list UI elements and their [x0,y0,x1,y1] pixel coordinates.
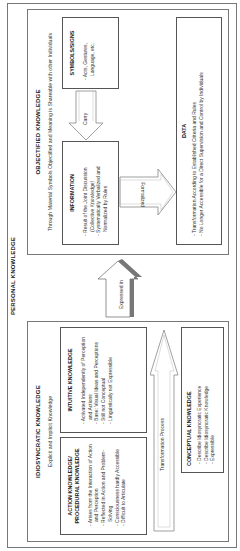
symbols-signs-list: Acts, Gestures, Language, etc. [82,18,96,88]
list-item: No Longer Accessible for a Direct Superv… [198,22,205,236]
list-item: Transformation According to Established … [191,22,198,236]
objectified-title: OBJECTIFIED KNOWLEDGE [35,9,41,255]
list-item: Describe Idiosyncratic Experience [196,332,203,464]
information-list: Result of the Joint Discussion (Collecti… [82,142,109,244]
symbols-signs-box: SYMBOLS/SIGNS Acts, Gestures, Language, … [62,17,119,89]
list-item: Describe Idiosyncratic Knowledge [203,332,210,464]
transformation-label: Transformation Process [159,418,165,471]
objectified-subtitle: Through Material Symbols Objectified and… [47,13,54,251]
intuitive-knowledge-list: Activated Independently of Perception an… [80,328,114,432]
list-item: Reflected in Action and Problem-Solving [100,442,114,526]
formalized-arrow-icon [118,167,178,217]
list-item: Difficult to Articulate [120,442,127,526]
conceptual-knowledge-title: CONCEPTUAL KNOWLEDGE [186,328,193,472]
conceptual-knowledge-box: CONCEPTUAL KNOWLEDGE Describe Idiosyncra… [181,327,224,473]
intuitive-knowledge-box: INTUITIVE KNOWLEDGE Activated Independen… [60,327,147,433]
list-item: Consciousness hardly Accessible [114,442,121,526]
conceptual-knowledge-list: Describe Idiosyncratic Experience Descri… [196,328,216,472]
list-item: Activated Independently of Perception an… [80,332,94,424]
transformation-arrow-icon [150,325,182,535]
information-box: INFORMATION Result of the Joint Discussi… [62,141,119,245]
list-item: Acts, Gestures, Language, etc. [82,22,96,80]
list-item: Result of the Joint Discussion (Collecti… [82,146,96,236]
intuitive-knowledge-title: INTUITIVE KNOWLEDGE [67,328,74,432]
carry-label: Carry [82,113,88,125]
formalized-label: Formalized [140,182,146,207]
list-item: Base: Visual Ideas and Perceptions [93,332,100,424]
list-item: Still not Conceptual [100,332,107,424]
data-title: DATA [181,18,188,244]
symbols-signs-title: SYMBOLS/SIGNS [69,18,76,88]
data-list: Transformation According to Established … [191,18,205,244]
idiosyncratic-subtitle: Explicit and Implicit Knowledge [47,321,54,542]
list-item: Expressible [209,332,216,464]
data-box: DATA Transformation According to Establi… [176,17,222,245]
diagram-title: PERSONAL KNOWLEDGE [10,201,16,351]
list-item: Systematically Verbalized and Normalized… [95,146,109,236]
list-item: Arises from the Interaction of Action an… [87,442,101,526]
action-knowledge-list: Arises from the Interaction of Action an… [87,438,128,534]
diagram-canvas: PERSONAL KNOWLEDGE IDIOSYNCRATIC KNOWLED… [0,0,240,551]
action-knowledge-title: ACTION KNOWLEDGE/ PROCEDURAL KNOWLEDGE [67,438,81,534]
list-item: Linguistically not Expressible [107,332,114,424]
action-knowledge-box: ACTION KNOWLEDGE/ PROCEDURAL KNOWLEDGE A… [60,437,147,535]
idiosyncratic-title: IDIOSYNCRATIC KNOWLEDGE [35,321,41,542]
information-title: INFORMATION [69,142,76,244]
expressed-in-label: Expressed in [118,280,124,309]
